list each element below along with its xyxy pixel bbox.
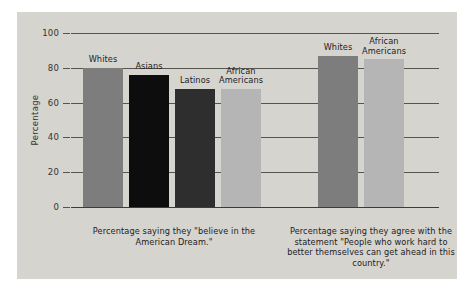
- plot-area: 020406080100 WhitesAsiansLatinosAfrican …: [71, 33, 439, 207]
- y-tick-0: [63, 207, 70, 208]
- bar-african-americans-g2: African Americans: [364, 59, 404, 207]
- bar-label: Whites: [89, 55, 118, 65]
- gridline-100: [71, 33, 439, 34]
- bar-whites-g2: Whites: [318, 56, 358, 207]
- bar-whites-g1: Whites: [83, 68, 123, 207]
- y-tick-label-80: 80: [48, 63, 59, 73]
- bar-label: Whites: [324, 43, 353, 53]
- bar-asians-g1: Asians: [129, 75, 169, 207]
- y-tick-100: [63, 33, 70, 34]
- bar-latinos-g1: Latinos: [175, 89, 215, 207]
- y-tick-label-0: 0: [53, 202, 59, 212]
- bar-label: Latinos: [180, 76, 210, 86]
- bar-african-americans-g1: African Americans: [221, 89, 261, 207]
- bar-label: African Americans: [219, 67, 263, 86]
- y-tick-label-20: 20: [48, 167, 59, 177]
- gridline-0: [71, 207, 439, 208]
- chart-figure: Percentage 020406080100 WhitesAsiansLati…: [17, 12, 457, 279]
- y-tick-40: [63, 137, 70, 138]
- caption-group-1: Percentage saying they "believe in the A…: [79, 226, 269, 247]
- bar-label: African Americans: [362, 37, 406, 56]
- y-tick-80: [63, 68, 70, 69]
- y-tick-label-100: 100: [42, 28, 59, 38]
- y-axis-title: Percentage: [30, 95, 40, 146]
- y-tick-60: [63, 103, 70, 104]
- caption-group-2: Percentage saying they agree with the st…: [285, 226, 457, 268]
- y-tick-label-60: 60: [48, 98, 59, 108]
- bar-label: Asians: [135, 62, 162, 72]
- y-tick-20: [63, 172, 70, 173]
- y-tick-label-40: 40: [48, 132, 59, 142]
